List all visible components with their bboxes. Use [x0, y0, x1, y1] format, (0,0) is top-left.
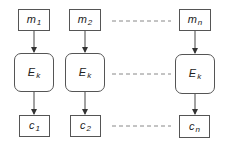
ciphertext-box-c1: c1 — [19, 115, 50, 137]
label-mn: mn — [188, 13, 203, 27]
plaintext-box-m1: m1 — [18, 9, 50, 31]
label-c1: c1 — [29, 119, 40, 133]
cipher-box-ek-2: Ek — [65, 53, 105, 92]
ciphertext-box-cn: cn — [179, 115, 210, 138]
ciphertext-box-c2: c2 — [70, 115, 101, 137]
label-m1: m1 — [27, 13, 42, 27]
label-ek-2: Ek — [79, 66, 91, 80]
cipher-box-ek-1: Ek — [14, 53, 54, 92]
label-m2: m2 — [78, 13, 93, 27]
plaintext-box-m2: m2 — [69, 9, 101, 31]
label-ek-1: Ek — [28, 66, 40, 80]
plaintext-box-mn: mn — [179, 9, 211, 31]
label-c2: c2 — [80, 119, 91, 133]
label-cn: cn — [189, 120, 200, 134]
label-ek-n: Ek — [189, 67, 201, 81]
cipher-box-ek-n: Ek — [175, 54, 215, 94]
